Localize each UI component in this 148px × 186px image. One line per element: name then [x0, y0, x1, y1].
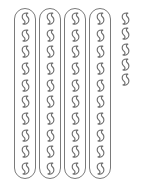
bean-counter-icon — [95, 62, 106, 75]
bean-counter-icon — [20, 162, 31, 175]
bean-counter-icon — [45, 79, 56, 92]
bean-counter-icon — [20, 62, 31, 75]
bean-counter-icon — [20, 79, 31, 92]
bean-counter-icon — [45, 129, 56, 142]
bean-counter-icon — [120, 43, 131, 56]
bean-counter-icon — [70, 45, 81, 58]
bean-counter-icon — [45, 95, 56, 108]
bean-counter-icon — [20, 95, 31, 108]
bean-counter-icon — [70, 162, 81, 175]
bean-counter-icon — [95, 112, 106, 125]
bean-counter-icon — [70, 95, 81, 108]
bean-counter-icon — [95, 79, 106, 92]
bean-counter-icon — [95, 129, 106, 142]
bean-counter-icon — [70, 129, 81, 142]
bean-counter-icon — [45, 162, 56, 175]
bean-counter-icon — [20, 45, 31, 58]
bean-counter-icon — [95, 95, 106, 108]
bean-counter-icon — [70, 112, 81, 125]
bean-counter-icon — [70, 12, 81, 25]
bean-counter-icon — [45, 62, 56, 75]
counter-tube-2 — [39, 8, 61, 179]
bean-counter-icon — [20, 29, 31, 42]
bean-counter-icon — [70, 29, 81, 42]
bean-counter-icon — [20, 12, 31, 25]
bean-counter-icon — [45, 12, 56, 25]
bean-counter-icon — [95, 162, 106, 175]
bean-counter-icon — [120, 58, 131, 71]
bean-counter-icon — [45, 145, 56, 158]
counters-canvas — [0, 0, 148, 186]
counter-tube-4 — [89, 8, 111, 179]
bean-counter-icon — [120, 27, 131, 40]
loose-counter-group — [119, 12, 132, 86]
bean-counter-icon — [95, 12, 106, 25]
bean-counter-icon — [95, 145, 106, 158]
bean-counter-icon — [120, 12, 131, 25]
bean-counter-icon — [20, 145, 31, 158]
bean-counter-icon — [70, 62, 81, 75]
bean-counter-icon — [45, 112, 56, 125]
bean-counter-icon — [45, 45, 56, 58]
counter-tube-1 — [14, 8, 36, 179]
bean-counter-icon — [70, 79, 81, 92]
bean-counter-icon — [95, 29, 106, 42]
counter-tube-3 — [64, 8, 86, 179]
bean-counter-icon — [45, 29, 56, 42]
bean-counter-icon — [95, 45, 106, 58]
bean-counter-icon — [20, 129, 31, 142]
bean-counter-icon — [120, 73, 131, 86]
bean-counter-icon — [70, 145, 81, 158]
bean-counter-icon — [20, 112, 31, 125]
